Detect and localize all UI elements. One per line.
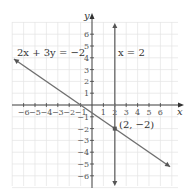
line2-label: x = 2 [118, 47, 145, 58]
axes [12, 13, 184, 188]
svg-text:−4: −4 [41, 108, 53, 117]
svg-text:4: 4 [135, 108, 140, 117]
svg-text:1: 1 [84, 89, 89, 98]
svg-text:3: 3 [124, 108, 129, 117]
y-axis-label: y [83, 10, 90, 21]
svg-text:−5: −5 [77, 160, 89, 169]
svg-text:3: 3 [84, 66, 89, 75]
svg-text:−2: −2 [63, 108, 75, 117]
coordinate-plane: −6−5−4−3−2−1123456−6−5−4−3−2−1123456 y x… [0, 0, 192, 192]
svg-text:−3: −3 [77, 136, 89, 145]
svg-text:−3: −3 [52, 108, 64, 117]
svg-text:−6: −6 [18, 108, 30, 117]
svg-text:6: 6 [158, 108, 163, 117]
svg-text:−4: −4 [77, 148, 89, 157]
line1-label: 2x + 3y = −2 [17, 47, 85, 58]
svg-text:5: 5 [146, 108, 151, 117]
svg-text:−5: −5 [29, 108, 41, 117]
svg-text:−1: −1 [77, 113, 89, 122]
intersection-point [113, 127, 117, 131]
svg-text:−6: −6 [77, 172, 89, 181]
svg-text:2: 2 [84, 77, 89, 86]
svg-text:1: 1 [101, 108, 106, 117]
intersection-label: (2, −2) [119, 119, 154, 130]
x-axis-label: x [177, 106, 183, 117]
svg-text:6: 6 [84, 30, 89, 39]
svg-text:−2: −2 [77, 125, 89, 134]
